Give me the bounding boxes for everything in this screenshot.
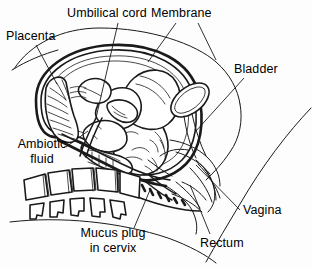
label-vagina: Vagina [243,203,282,218]
label-membrane: Membrane [151,6,212,21]
label-mucus-plug-line2: in cervix [90,241,137,255]
sacrum-vertebrae [24,168,140,200]
leader-rectum [190,185,210,234]
spinous-processes [30,198,126,219]
leader-membrane-2 [198,23,216,60]
label-placenta: Placenta [6,29,55,44]
label-umbilical-cord: Umbilical cord [67,6,147,21]
label-mucus-plug-in-cervix: Mucus plug in cervix [71,226,155,255]
label-mucus-plug-line1: Mucus plug [81,226,146,240]
label-ambiotic-fluid-line2: fluid [30,152,53,166]
label-ambiotic-fluid-line1: Ambiotic [18,137,67,151]
label-ambiotic-fluid: Ambiotic fluid [10,137,74,166]
label-bladder: Bladder [234,62,278,77]
label-rectum: Rectum [200,236,244,251]
leader-vagina [196,165,240,210]
pregnancy-anatomy-diagram: Umbilical cord Membrane Placenta Bladder… [0,0,312,267]
